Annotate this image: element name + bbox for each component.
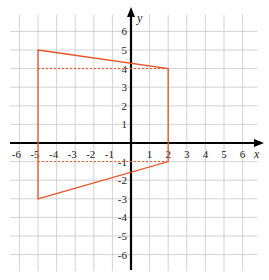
x-tick-label: -4 — [49, 148, 59, 160]
y-tick-label: 6 — [122, 25, 128, 37]
x-tick-label: -1 — [105, 148, 114, 160]
y-tick-label: 3 — [122, 81, 128, 93]
coordinate-plane: -6-5-4-3-2-1123456654321-1-2-3-4-5-6 x y — [0, 0, 269, 280]
y-axis-arrow-icon — [127, 7, 135, 17]
x-tick-label: 5 — [221, 148, 227, 160]
x-tick-label: 6 — [240, 148, 246, 160]
x-axis-arrow-icon — [254, 139, 264, 147]
y-axis-label: y — [136, 11, 143, 25]
x-tick-label: -2 — [86, 148, 95, 160]
x-tick-label: 1 — [147, 148, 153, 160]
x-tick-label: -6 — [12, 148, 22, 160]
x-axis-label: x — [253, 147, 260, 161]
x-tick-label: 3 — [184, 148, 190, 160]
y-tick-label: 1 — [122, 118, 128, 130]
y-tick-label: -6 — [118, 249, 128, 261]
y-tick-label: -4 — [118, 211, 128, 223]
x-tick-label: 4 — [203, 148, 209, 160]
y-tick-label: 5 — [122, 44, 128, 56]
y-tick-label: -5 — [118, 230, 128, 242]
x-tick-label: -3 — [68, 148, 78, 160]
axes — [10, 7, 264, 270]
y-tick-label: 2 — [122, 100, 128, 112]
y-tick-label: -3 — [118, 193, 128, 205]
